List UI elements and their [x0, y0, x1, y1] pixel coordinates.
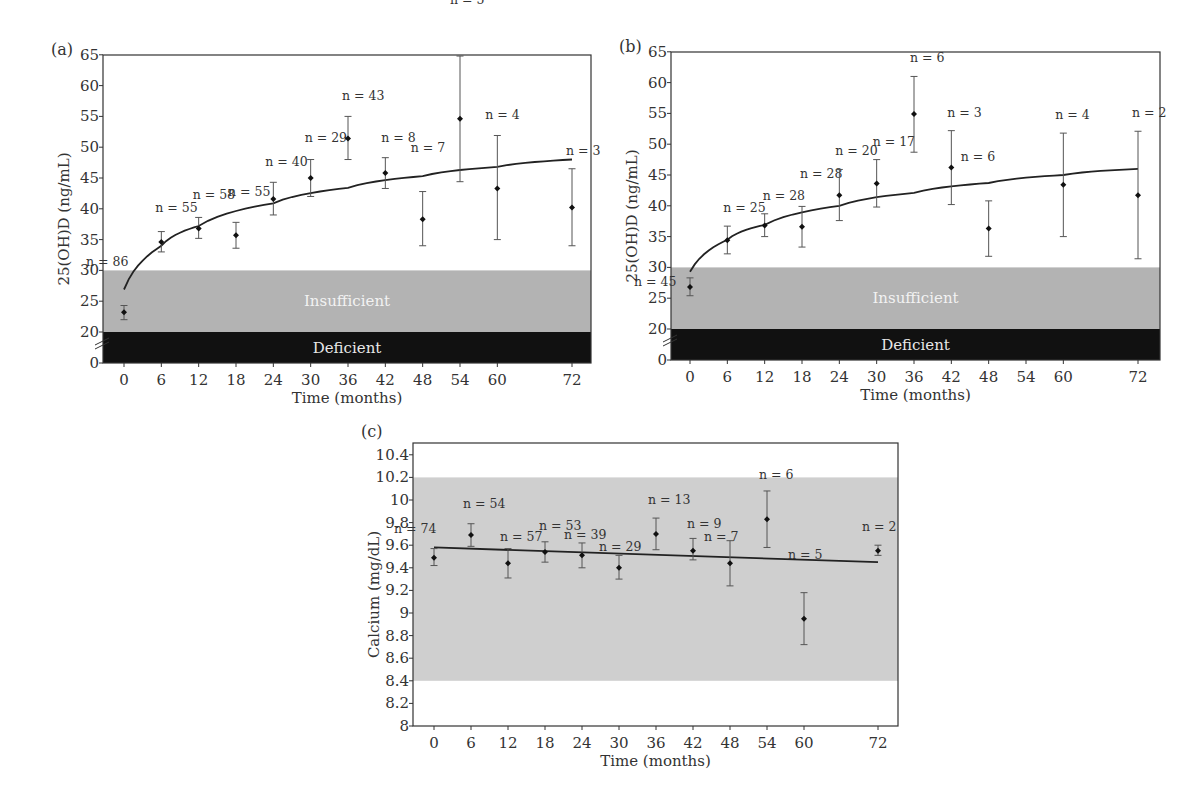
- data-point: n = 7: [411, 140, 445, 246]
- x-tick-label: 30: [609, 734, 628, 752]
- sample-size-label: n = 29: [305, 130, 347, 145]
- x-axis-title: Time (months): [600, 752, 711, 770]
- data-point: n = 2: [1132, 105, 1166, 259]
- y-tick-label: 25: [648, 289, 667, 307]
- sample-size-label: n = 7: [411, 140, 445, 155]
- x-tick-label: 42: [942, 368, 961, 386]
- x-tick-label: 18: [535, 734, 554, 752]
- y-tick-label: 50: [648, 135, 667, 153]
- y-tick-label: 8.2: [385, 694, 409, 712]
- x-tick-label: 42: [683, 734, 702, 752]
- x-axis-title: Time (months): [292, 389, 403, 407]
- y-tick-label: 45: [648, 166, 667, 184]
- y-tick-label: 8: [399, 717, 409, 735]
- data-marker-diamond: [270, 196, 276, 202]
- data-point: n = 40: [265, 154, 307, 215]
- y-tick-label: 40: [648, 197, 667, 215]
- data-point: n = 6: [910, 50, 944, 152]
- y-tick-label: 35: [648, 228, 667, 246]
- x-tick-label: 72: [1128, 368, 1147, 386]
- chart-panel-b: InsufficientDeficient0202530354045505560…: [619, 37, 1166, 404]
- x-tick-label: 0: [429, 734, 439, 752]
- figure-canvas: InsufficientDeficient0202530354045505560…: [0, 0, 1204, 800]
- x-tick-label: 24: [572, 734, 591, 752]
- data-marker-diamond: [420, 216, 426, 222]
- sample-size-label: n = 6: [759, 467, 793, 482]
- sample-size-label: n = 57: [500, 529, 542, 544]
- y-tick-label: 9.2: [385, 581, 409, 599]
- x-tick-label: 30: [301, 371, 320, 389]
- sample-size-label: n = 3: [566, 143, 600, 158]
- data-point: n = 55: [155, 200, 197, 252]
- x-tick-label: 54: [1016, 368, 1035, 386]
- x-tick-label: 6: [466, 734, 476, 752]
- band-label: Insufficient: [872, 289, 958, 307]
- data-point: n = 29: [305, 130, 347, 197]
- panel-label: (b): [619, 37, 642, 56]
- data-marker-diamond: [569, 205, 575, 211]
- data-marker-diamond: [948, 165, 954, 171]
- data-point: n = 5: [450, 0, 484, 182]
- y-tick-label: 8.4: [385, 672, 409, 690]
- sample-size-label: n = 13: [648, 492, 690, 507]
- x-tick-label: 0: [119, 371, 129, 389]
- x-tick-label: 72: [868, 734, 887, 752]
- x-tick-label: 60: [1054, 368, 1073, 386]
- y-axis-title: 25(OH)D (ng/mL): [623, 149, 641, 282]
- data-marker-diamond: [874, 181, 880, 187]
- sample-size-label: n = 6: [910, 50, 944, 65]
- x-tick-label: 48: [979, 368, 998, 386]
- x-tick-label: 60: [794, 734, 813, 752]
- sample-size-label: n = 3: [947, 105, 981, 120]
- y-tick-label: 20: [80, 323, 99, 341]
- panel-label: (c): [361, 422, 382, 441]
- x-tick-label: 54: [757, 734, 776, 752]
- y-tick-label: 60: [648, 74, 667, 92]
- sample-size-label: n = 54: [463, 496, 505, 511]
- data-point: n = 55: [228, 184, 270, 248]
- x-tick-label: 12: [189, 371, 208, 389]
- sample-size-label: n = 45: [634, 274, 676, 289]
- sample-size-label: n = 43: [342, 88, 384, 103]
- x-tick-label: 36: [904, 368, 923, 386]
- x-tick-label: 36: [646, 734, 665, 752]
- y-tick-label: 55: [80, 107, 99, 125]
- sample-size-label: n = 4: [1055, 107, 1089, 122]
- x-tick-label: 6: [157, 371, 167, 389]
- x-tick-label: 0: [685, 368, 695, 386]
- sample-size-label: n = 17: [873, 134, 915, 149]
- sample-size-label: n = 6: [961, 149, 995, 164]
- x-tick-label: 18: [792, 368, 811, 386]
- y-tick-label: 50: [80, 138, 99, 156]
- y-tick-label: 20: [648, 320, 667, 338]
- sample-size-label: n = 25: [723, 200, 765, 215]
- y-tick-label: 55: [648, 104, 667, 122]
- y-axis-title: 25(OH)D (ng/mL): [55, 152, 73, 285]
- data-marker-diamond: [799, 224, 805, 230]
- x-tick-label: 42: [376, 371, 395, 389]
- y-tick-label: 8.6: [385, 649, 409, 667]
- x-tick-label: 24: [830, 368, 849, 386]
- data-marker-diamond: [986, 226, 992, 232]
- sample-size-label: n = 55: [155, 200, 197, 215]
- y-tick-label: 0: [89, 354, 99, 372]
- x-tick-label: 24: [264, 371, 283, 389]
- x-tick-label: 60: [488, 371, 507, 389]
- x-tick-label: 6: [723, 368, 733, 386]
- y-tick-label: 60: [80, 77, 99, 95]
- data-marker-diamond: [836, 192, 842, 198]
- x-tick-label: 72: [562, 371, 581, 389]
- y-tick-label: 40: [80, 200, 99, 218]
- sample-size-label: n = 28: [800, 166, 842, 181]
- data-marker-diamond: [457, 116, 463, 122]
- y-tick-label: 9: [399, 604, 409, 622]
- y-tick-label: 45: [80, 169, 99, 187]
- y-tick-label: 10: [390, 491, 409, 509]
- sample-size-label: n = 2: [1132, 105, 1166, 120]
- data-marker-diamond: [382, 170, 388, 176]
- sample-size-label: n = 2: [862, 519, 896, 534]
- x-tick-label: 12: [498, 734, 517, 752]
- x-tick-label: 48: [413, 371, 432, 389]
- y-tick-label: 10.2: [376, 468, 409, 486]
- x-tick-label: 30: [867, 368, 886, 386]
